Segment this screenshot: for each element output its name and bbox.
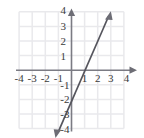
y-tick-label-2: 2	[61, 35, 67, 47]
y-tick-label-1: 1	[61, 50, 67, 62]
x-tick-label-4: 4	[124, 72, 130, 84]
graph-canvas: -4 -3 -2 -1 1 2 3 4 4 3 2 1 -1 -2 -3 -4	[0, 0, 144, 138]
x-tick-label-minus3: -3	[28, 72, 38, 84]
y-tick-label-minus1: -1	[60, 79, 69, 91]
y-tick-label-minus4: -4	[60, 123, 70, 135]
x-tick-label-2: 2	[95, 72, 101, 84]
y-tick-label-minus3: -3	[60, 108, 70, 120]
y-tick-label-minus2: -2	[60, 93, 69, 105]
x-tick-label-3: 3	[108, 72, 114, 84]
y-tick-label-4: 4	[61, 4, 67, 16]
coordinate-plane-figure: -4 -3 -2 -1 1 2 3 4 4 3 2 1 -1 -2 -3 -4	[0, 0, 144, 138]
x-tick-label-minus2: -2	[41, 72, 50, 84]
x-axis-arrowhead-icon	[130, 67, 138, 74]
x-tick-label-minus4: -4	[15, 72, 25, 84]
y-tick-label-3: 3	[61, 20, 67, 32]
x-tick-label-1: 1	[82, 72, 88, 84]
y-axis-tick-labels: 4 3 2 1 -1 -2 -3 -4	[60, 4, 70, 135]
